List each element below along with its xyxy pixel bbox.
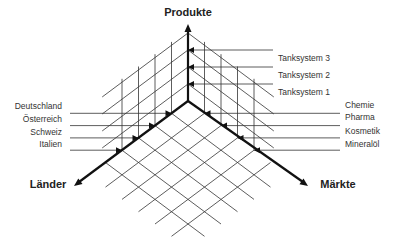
axis-title-countries: Länder: [30, 178, 67, 190]
market-label-mineraloel: Mineralöl: [345, 139, 380, 149]
axis-title-products: Produkte: [164, 6, 212, 18]
left-wall-diagonal-line: [102, 50, 188, 114]
right-wall-diagonal-line: [188, 67, 274, 131]
grid-lines: [70, 33, 340, 236]
product-label-2: Tanksystem 2: [278, 70, 330, 80]
country-label-oesterreich: Österreich: [23, 114, 62, 124]
country-label-schweiz: Schweiz: [30, 127, 62, 137]
market-label-pharma: Pharma: [345, 112, 375, 122]
product-label-3: Tanksystem 3: [278, 53, 330, 63]
three-axis-diagram: Produkte Länder Märkte Tanksystem 3 Tank…: [0, 0, 395, 245]
axes: [74, 24, 308, 186]
country-label-italien: Italien: [39, 139, 62, 149]
product-label-1: Tanksystem 1: [278, 87, 330, 97]
market-label-kosmetik: Kosmetik: [345, 126, 381, 136]
country-label-deutschland: Deutschland: [15, 101, 63, 111]
right-wall-diagonal-line: [188, 33, 274, 97]
axis-title-markets: Märkte: [320, 178, 355, 190]
left-wall-diagonal-line: [102, 33, 188, 97]
right-wall-diagonal-line: [188, 50, 274, 114]
products-axis-arrowhead: [185, 24, 192, 32]
market-label-chemie: Chemie: [345, 100, 375, 110]
labels: Produkte Länder Märkte Tanksystem 3 Tank…: [15, 6, 381, 190]
left-wall-diagonal-line: [102, 67, 188, 131]
